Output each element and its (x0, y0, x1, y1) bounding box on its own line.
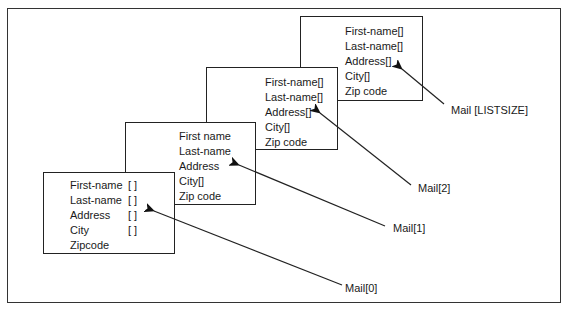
label-mail-1: Mail[1] (393, 222, 425, 234)
arrow-mail-2 (320, 113, 411, 185)
label-mail-listsize: Mail [LISTSIZE] (451, 104, 528, 116)
arrow-mail-listsize (402, 69, 444, 104)
label-mail-2: Mail[2] (418, 182, 450, 194)
arrow-mail-1 (239, 165, 385, 226)
arrow-mail-0 (154, 211, 342, 285)
label-mail-0: Mail[0] (345, 282, 377, 294)
pointer-arrows (0, 0, 570, 311)
